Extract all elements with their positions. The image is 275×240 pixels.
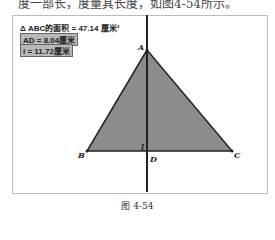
label-d: D xyxy=(150,154,157,164)
label-b: B xyxy=(78,150,85,160)
l-measurement: l = 11.72厘米 xyxy=(20,44,73,57)
point-b xyxy=(86,150,89,153)
figure-caption: 图 4-54 xyxy=(0,199,275,212)
point-a xyxy=(146,49,149,52)
area-measurement: Δ ABC的面积 = 47.14 厘米² xyxy=(20,22,119,33)
triangle-abc xyxy=(87,50,232,151)
label-l: l xyxy=(141,142,144,152)
label-c: C xyxy=(234,150,240,160)
label-a: A xyxy=(138,42,144,52)
